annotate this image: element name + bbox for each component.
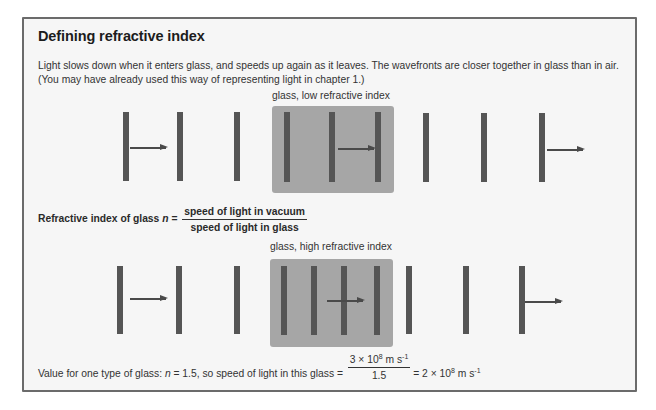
formula-variable: n — [162, 213, 168, 224]
wavefront — [123, 112, 129, 181]
wavefront-in-glass — [311, 266, 317, 335]
wavefront — [177, 112, 183, 181]
direction-arrow — [547, 149, 583, 151]
wavefront — [423, 113, 429, 182]
wavefront-in-glass — [329, 112, 335, 182]
low-index-caption: glass, low refractive index — [272, 90, 390, 101]
wavefront — [234, 266, 240, 334]
wavefront — [117, 266, 123, 334]
formula-numerator: speed of light in vacuum — [182, 206, 307, 220]
wavefront — [406, 266, 412, 334]
high-index-caption: glass, high refractive index — [270, 241, 392, 252]
example-numerator: 3 × 108 m s-1 — [348, 354, 411, 368]
wavefront-in-glass — [374, 266, 380, 335]
wavefront — [481, 113, 487, 182]
direction-arrow — [130, 298, 166, 300]
direction-arrow — [130, 147, 166, 149]
intro-text: Light slows down when it enters glass, a… — [38, 59, 628, 87]
example-n-value: = 1.5, so speed of light in this glass = — [171, 368, 346, 379]
direction-arrow — [327, 300, 363, 302]
box-title: Defining refractive index — [38, 28, 205, 44]
example-prefix: Value for one type of glass: — [38, 368, 165, 379]
wavefront — [519, 266, 525, 334]
formula-label: Refractive index of glass — [38, 213, 159, 224]
example-result: = 2 × 108 m s-1 — [413, 368, 480, 379]
wavefront — [234, 112, 240, 181]
wavefront-in-glass — [281, 266, 287, 335]
formula-denominator: speed of light in glass — [182, 220, 307, 233]
worked-example: Value for one type of glass: n = 1.5, so… — [38, 361, 481, 388]
example-fraction: 3 × 108 m s-1 1.5 — [348, 354, 411, 381]
wavefront — [176, 266, 182, 334]
wavefront-in-glass — [284, 112, 290, 182]
wavefront — [539, 113, 545, 182]
direction-arrow — [525, 301, 561, 303]
example-denominator: 1.5 — [348, 368, 411, 381]
refractive-index-formula: Refractive index of glass n = speed of l… — [38, 206, 307, 233]
formula-fraction: speed of light in vacuum speed of light … — [182, 206, 307, 233]
formula-equals: = — [171, 213, 177, 224]
wavefront — [463, 266, 469, 334]
direction-arrow — [338, 148, 374, 150]
